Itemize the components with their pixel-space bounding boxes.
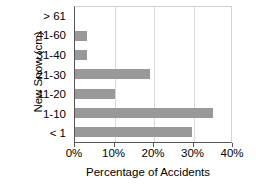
bar-row [75,103,231,122]
y-tick-label-5: 1-10 [16,104,70,124]
bar-1 [75,31,87,41]
y-axis-tick-labels: > 61 41-60 31-40 21-30 11-20 1-10 < 1 [16,6,70,143]
x-tick-label-40%: 40% [220,147,243,159]
x-tick-label-20%: 20% [141,147,164,159]
y-tick-label-6: < 1 [16,123,70,143]
bar-4 [75,89,115,99]
x-tick-label-10%: 10% [102,147,125,159]
bar-3 [75,69,150,79]
bar-row [75,123,231,142]
x-tick-label-0%: 0% [66,147,83,159]
y-tick-label-4: 11-20 [16,84,70,104]
bar-row [75,65,231,84]
snow-accidents-bar-chart: New Snow (cm) > 61 41-60 31-40 21-30 11-… [0,0,256,194]
x-axis-tick-labels: 0%10%20%30%40% [74,147,232,162]
bar-row [75,46,231,65]
y-tick-label-2: 31-40 [16,45,70,65]
bar-row [75,26,231,45]
plot-area [74,6,232,143]
y-tick-label-1: 41-60 [16,26,70,46]
bar-5 [75,108,213,118]
y-tick-label-0: > 61 [16,6,70,26]
bar-row [75,84,231,103]
bar-series [75,7,231,142]
x-tick-label-30%: 30% [181,147,204,159]
y-tick-label-3: 21-30 [16,65,70,85]
bar-row [75,7,231,26]
bar-6 [75,127,192,137]
bar-2 [75,50,87,60]
x-axis-title: Percentage of Accidents [40,166,256,178]
